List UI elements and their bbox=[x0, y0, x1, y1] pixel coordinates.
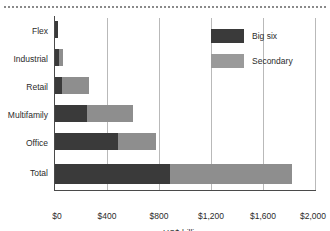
x-axis-tick-0: $0 bbox=[52, 211, 61, 221]
gridline-2000 bbox=[315, 18, 316, 190]
x-axis-line bbox=[54, 190, 316, 191]
legend-label-secondary: Secondary bbox=[252, 56, 293, 66]
plot-area: Big six Secondary $0 $400 $800 $1,200 $1… bbox=[55, 18, 316, 190]
bar-segment-secondary bbox=[170, 164, 292, 184]
x-axis-title: US$ billions bbox=[55, 228, 316, 231]
x-axis-tick-400: $400 bbox=[98, 211, 117, 221]
x-axis-tick-800: $800 bbox=[150, 211, 169, 221]
bar-segment-big-six bbox=[55, 21, 58, 38]
bar-segment-big-six bbox=[55, 164, 170, 184]
y-axis-label-industrial: Industrial bbox=[14, 54, 49, 64]
y-axis-category-labels: Flex Industrial Retail Multifamily Offic… bbox=[0, 18, 52, 190]
bar-segment-big-six bbox=[55, 77, 62, 94]
y-axis-label-office: Office bbox=[26, 138, 48, 148]
y-axis-label-retail: Retail bbox=[26, 82, 48, 92]
chart-figure: Flex Industrial Retail Multifamily Offic… bbox=[0, 0, 330, 231]
legend-label-big-six: Big six bbox=[252, 31, 277, 41]
bar-segment-secondary bbox=[62, 77, 89, 94]
top-dotted-divider bbox=[4, 6, 326, 8]
bar-segment-big-six bbox=[55, 105, 87, 122]
y-axis-label-total: Total bbox=[30, 168, 48, 178]
y-axis-label-multifamily: Multifamily bbox=[8, 110, 48, 120]
bar-segment-big-six bbox=[55, 133, 118, 150]
bar-segment-secondary bbox=[118, 133, 156, 150]
bar-segment-secondary bbox=[87, 105, 133, 122]
bar-segment-secondary bbox=[59, 49, 63, 66]
x-axis-tick-2000: $2,000 bbox=[300, 211, 326, 221]
x-axis-tick-1600: $1,600 bbox=[250, 211, 276, 221]
y-axis-label-flex: Flex bbox=[32, 26, 48, 36]
legend-swatch-icon bbox=[211, 29, 244, 43]
x-axis-tick-1200: $1,200 bbox=[198, 211, 224, 221]
legend-swatch-icon bbox=[211, 54, 244, 68]
